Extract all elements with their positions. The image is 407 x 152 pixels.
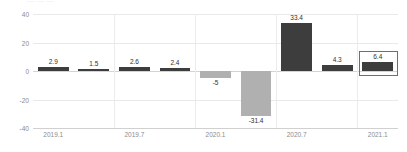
clipped-header-artifact: — — — <box>27 0 54 4</box>
bar[interactable] <box>241 71 272 116</box>
bar[interactable] <box>38 67 69 71</box>
bar-value-label: 4.3 <box>317 56 358 64</box>
x-axis-labels: 2019.12019.72020.12020.72021.1 <box>33 131 398 145</box>
bar-chart: — — — 40200-20-40 2.91.52.62.4-5-31.433.… <box>0 0 407 152</box>
y-tick-label: 20 <box>22 39 29 46</box>
y-tick-label: -20 <box>20 96 29 103</box>
bar[interactable] <box>362 62 393 71</box>
bar[interactable] <box>119 67 150 71</box>
x-tick-label: 2019.7 <box>124 131 144 138</box>
y-tick-label: -40 <box>20 125 29 132</box>
bar-column[interactable]: 33.4 <box>276 14 317 128</box>
bar-column[interactable]: 2.4 <box>155 14 196 128</box>
x-tick-label: 2020.1 <box>206 131 226 138</box>
x-axis-line <box>33 128 398 129</box>
bar[interactable] <box>281 23 312 71</box>
bar-value-label: 2.9 <box>33 58 74 66</box>
plot-area: 40200-20-40 2.91.52.62.4-5-31.433.44.36.… <box>33 14 398 128</box>
bar-column[interactable]: -5 <box>195 14 236 128</box>
y-tick-label: 0 <box>25 68 29 75</box>
x-tick-label: 2020.7 <box>287 131 307 138</box>
bar-column[interactable]: -31.4 <box>236 14 277 128</box>
bar[interactable] <box>78 69 109 71</box>
x-tick-label: 2019.1 <box>43 131 63 138</box>
bar-column[interactable]: 2.6 <box>114 14 155 128</box>
y-tick-label: 40 <box>22 11 29 18</box>
bar[interactable] <box>322 65 353 71</box>
bar-series: 2.91.52.62.4-5-31.433.44.36.4 <box>33 14 398 128</box>
bar-value-label: 2.4 <box>155 59 196 67</box>
bar[interactable] <box>200 71 231 78</box>
bar-value-label: -5 <box>195 79 236 87</box>
bar-column[interactable]: 2.9 <box>33 14 74 128</box>
bar-value-label: 33.4 <box>276 14 317 22</box>
bar-column[interactable]: 6.4 <box>358 14 399 128</box>
bar-value-label: 6.4 <box>358 53 399 61</box>
bar-column[interactable]: 1.5 <box>74 14 115 128</box>
bar-value-label: 1.5 <box>74 60 115 68</box>
bar[interactable] <box>160 68 191 71</box>
x-tick-label: 2021.1 <box>368 131 388 138</box>
bar-value-label: -31.4 <box>236 117 277 125</box>
bar-value-label: 2.6 <box>114 58 155 66</box>
bar-column[interactable]: 4.3 <box>317 14 358 128</box>
